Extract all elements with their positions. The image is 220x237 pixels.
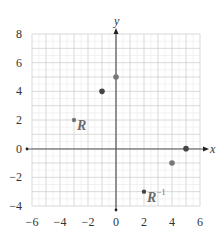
x-tick-label: 6 [197,215,203,229]
data-point [169,160,175,166]
x-axis-arrow-left [26,148,29,151]
x-axis-arrow-right [203,147,209,152]
y-axis-arrow-up [114,28,119,34]
y-tick-label: 2 [16,113,22,127]
data-point [99,89,105,95]
y-tick-label: 0 [16,142,22,156]
y-tick-label: 8 [16,27,22,41]
x-tick-label: −6 [26,215,39,229]
y-tick-label: −4 [9,199,22,213]
x-tick-label: 4 [169,215,175,229]
data-point [113,74,119,80]
data-point [183,146,189,152]
label-r-inverse: R [146,190,156,205]
y-tick-label: 6 [16,56,22,70]
y-tick-label: −2 [9,170,22,184]
y-axis-arrow-down [115,209,118,212]
data-point [142,189,146,193]
label-r: R [76,118,86,133]
x-axis-label: x [209,142,216,156]
x-tick-label: −4 [54,215,67,229]
data-point [72,118,76,122]
x-tick-label: 2 [141,215,147,229]
y-tick-label: 4 [16,84,22,98]
x-tick-label: 0 [113,215,119,229]
x-tick-label: −2 [82,215,95,229]
label-r-inverse-superscript: −1 [157,188,166,197]
y-axis-label: y [113,14,120,28]
coordinate-plane: x y −6−4−20246−4−202468 R R −1 [0,0,220,237]
